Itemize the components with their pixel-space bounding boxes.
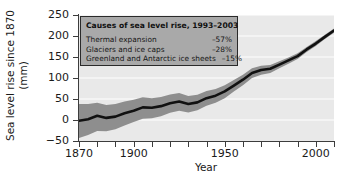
legend-row-label: Greenland and Antarctic ice sheets <box>86 54 216 64</box>
y-axis-title-line2: (mm) <box>17 61 29 90</box>
x-tick-mark <box>334 142 335 147</box>
y-tick-label: 250 <box>48 9 69 20</box>
legend-title: Causes of sea level rise, 1993–2003 <box>86 21 232 30</box>
y-tick-mark <box>73 120 78 121</box>
y-tick-mark <box>73 15 78 16</box>
y-tick-label: 200 <box>48 30 69 41</box>
y-tick-mark <box>73 36 78 37</box>
y-tick-mark <box>73 99 78 100</box>
legend-row-value: –28% <box>206 45 232 55</box>
y-axis-line <box>78 14 79 142</box>
x-tick-label: 1900 <box>114 148 154 159</box>
x-tick-label: 1870 <box>59 148 99 159</box>
x-tick-mark <box>170 142 171 147</box>
x-tick-mark <box>298 142 299 147</box>
x-tick-label: 2000 <box>296 148 336 159</box>
x-tick-label: 1950 <box>205 148 245 159</box>
x-tick-mark <box>279 142 280 147</box>
legend-row-value: –15% <box>216 54 242 64</box>
x-tick-mark <box>188 142 189 147</box>
x-tick-mark <box>152 142 153 147</box>
legend-row: Greenland and Antarctic ice sheets–15% <box>86 54 232 64</box>
chart-figure: Sea level rise since 1870 (mm) −50050100… <box>0 0 347 177</box>
y-axis-title-line1: Sea level rise since 1870 <box>5 9 17 140</box>
y-tick-label: 50 <box>55 93 69 104</box>
y-tick-label: −50 <box>46 135 69 146</box>
y-tick-mark <box>73 78 78 79</box>
legend-row-label: Glaciers and ice caps <box>86 45 165 55</box>
x-axis-title: Year <box>78 161 334 173</box>
y-tick-label: 0 <box>62 114 69 125</box>
y-tick-mark <box>73 141 78 142</box>
x-tick-mark <box>261 142 262 147</box>
x-tick-mark <box>243 142 244 147</box>
legend-row-label: Thermal expansion <box>86 35 157 45</box>
x-tick-mark <box>97 142 98 147</box>
legend-row: Glaciers and ice caps–28% <box>86 45 232 55</box>
y-axis-title: Sea level rise since 1870 (mm) <box>0 0 34 150</box>
legend-row: Thermal expansion–57% <box>86 35 232 45</box>
y-tick-label: 100 <box>48 72 69 83</box>
legend-rows: Thermal expansion–57%Glaciers and ice ca… <box>86 35 232 64</box>
legend-box: Causes of sea level rise, 1993–2003 Ther… <box>80 16 238 66</box>
x-tick-mark <box>207 142 208 147</box>
legend-row-value: –57% <box>206 35 232 45</box>
y-tick-mark <box>73 57 78 58</box>
x-tick-mark <box>115 142 116 147</box>
y-tick-label: 150 <box>48 51 69 62</box>
